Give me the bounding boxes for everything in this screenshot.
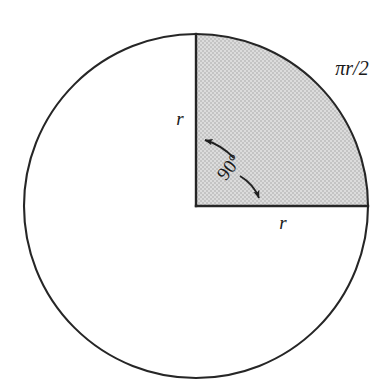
circle-quarter-diagram: r r πr/2 90° bbox=[0, 0, 387, 391]
label-arc-length: πr/2 bbox=[335, 57, 368, 79]
label-radius-vertical: r bbox=[176, 108, 184, 129]
diagram-canvas: r r πr/2 90° bbox=[0, 0, 387, 391]
label-radius-horizontal: r bbox=[279, 212, 287, 233]
